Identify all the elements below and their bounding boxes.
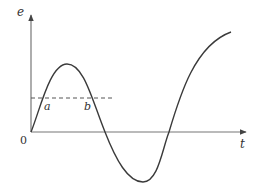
origin-label: 0 (20, 134, 27, 147)
point-a-label: a (44, 100, 51, 113)
point-b-label: b (84, 100, 91, 113)
y-axis-label: e (17, 5, 24, 19)
e-t-waveform-diagram: e t 0 a b (0, 0, 258, 190)
waveform-curve (31, 32, 231, 182)
x-axis-label: t (240, 137, 245, 151)
